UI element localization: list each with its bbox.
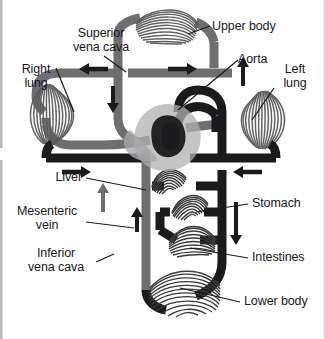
descending-aorta-arrow bbox=[230, 202, 242, 245]
label-stomach: Stomach bbox=[252, 196, 322, 210]
left-lung-out-arrow bbox=[233, 166, 262, 178]
left-lung-bed bbox=[241, 91, 284, 149]
leader-inferior-vena-cava bbox=[96, 254, 114, 262]
label-left-lung: Left lung bbox=[268, 62, 322, 90]
right-lung-bed bbox=[31, 84, 74, 145]
leader-mesenteric-vein bbox=[86, 222, 134, 228]
label-upper-body: Upper body bbox=[212, 19, 318, 33]
intestines-bed bbox=[169, 227, 216, 258]
label-superior-vena-cava: Superior vena cava bbox=[52, 26, 150, 54]
leader-liver bbox=[86, 178, 146, 190]
label-mesenteric-vein: Mesenteric vein bbox=[6, 204, 88, 232]
label-intestines: Intestines bbox=[252, 250, 326, 264]
hepatic-vein-arrow bbox=[97, 183, 109, 212]
label-liver: Liver bbox=[20, 170, 82, 184]
stomach-bed bbox=[172, 196, 208, 220]
label-inferior-vena-cava: Inferior vena cava bbox=[14, 246, 98, 274]
label-right-lung: Right lung bbox=[6, 62, 66, 90]
label-lower-body: Lower body bbox=[244, 294, 326, 308]
circulatory-system-diagram: Superior vena cava Upper body Aorta Righ… bbox=[0, 0, 326, 339]
